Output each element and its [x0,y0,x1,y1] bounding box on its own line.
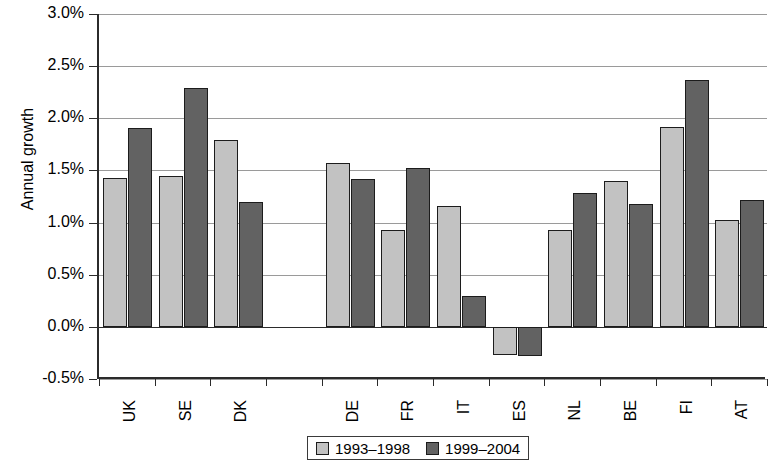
x-axis-tick-label: BE [622,400,640,452]
bar [604,181,628,327]
x-axis-tick-mark [544,379,545,386]
y-axis-tick-label: 2.0% [6,108,84,126]
bar [437,206,461,327]
x-axis-tick-label: SE [177,400,195,452]
y-axis-tick-label: 1.5% [6,160,84,178]
legend-label: 1999–2004 [445,440,520,457]
x-axis-tick-mark [377,379,378,386]
x-axis-tick-mark [210,379,211,386]
x-axis-tick-mark [433,379,434,386]
x-axis-tick-mark [767,379,768,386]
bar [462,296,486,327]
x-axis-tick-mark [266,379,267,386]
bar [214,140,238,327]
bar-group [159,14,215,379]
bar [518,327,542,356]
bar-group-container: UKSEDKDEFRITESNLBEFIAT [99,14,765,379]
legend-label: 1993–1998 [335,440,410,457]
bar-group [326,14,382,379]
bar [685,80,709,327]
bar-group [437,14,493,379]
y-axis-tick-mark [89,170,97,171]
bar [740,200,764,327]
bar [660,127,684,327]
legend-entry[interactable]: 1999–2004 [426,440,520,457]
y-axis-tick-mark [89,66,97,67]
x-axis-tick-mark [322,379,323,386]
y-axis-tick-label: 2.5% [6,56,84,74]
y-axis-tick-mark [89,118,97,119]
bar [406,168,430,327]
x-axis-tick-mark [711,379,712,386]
bar-group [270,14,326,379]
bar [184,88,208,327]
x-axis-tick-mark [155,379,156,386]
light-gray-swatch [316,442,329,455]
y-axis-tick-mark [89,275,97,276]
bar [548,230,572,327]
bar [159,176,183,327]
y-axis-tick-label: 0.5% [6,265,84,283]
bar [351,179,375,327]
bar-group [493,14,549,379]
y-axis-tick-label: 3.0% [6,4,84,22]
bar [715,220,739,326]
y-axis-tick-mark [89,223,97,224]
y-axis-tick-label: 0.0% [6,317,84,335]
x-axis-tick-mark [489,379,490,386]
bar [103,178,127,327]
bar [629,204,653,327]
bar [128,128,152,327]
bar [239,202,263,327]
bar-group [715,14,771,379]
chart-legend: 1993–19981999–2004 [307,436,529,460]
x-axis-tick-label: DK [232,400,250,452]
x-axis-tick-label: UK [121,400,139,452]
x-axis-tick-label: NL [566,400,584,452]
bar-group [604,14,660,379]
bar-group [381,14,437,379]
bar [573,193,597,326]
bar [381,230,405,327]
y-axis-tick-mark [89,327,97,328]
y-axis-tick-mark [89,14,97,15]
bar-group [548,14,604,379]
x-axis-tick-mark [99,379,100,386]
bar [326,163,350,327]
y-axis-tick-label: 1.0% [6,213,84,231]
y-axis-tick-label: -0.5% [6,369,84,387]
bar [493,327,517,355]
x-axis-tick-label: AT [733,400,751,452]
x-axis-tick-mark [656,379,657,386]
bar-group [660,14,716,379]
dark-gray-swatch [426,442,439,455]
x-axis-tick-label: FI [678,400,696,452]
legend-entry[interactable]: 1993–1998 [316,440,410,457]
bar-group [103,14,159,379]
bar-chart-figure: Annual growth 3.0%2.5%2.0%1.5%1.0%0.5%0.… [0,0,777,464]
bar-group [214,14,270,379]
x-axis-tick-mark [600,379,601,386]
y-axis-tick-mark [89,379,97,380]
